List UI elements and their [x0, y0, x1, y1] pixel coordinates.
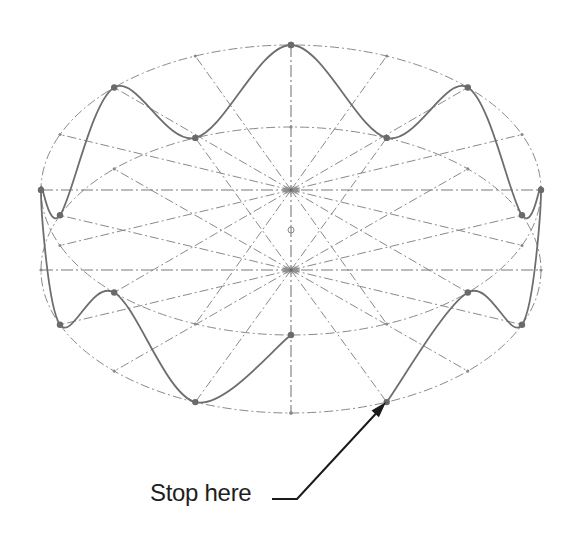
curve-point: [384, 135, 390, 141]
lower-hub-center: [289, 268, 293, 272]
division-dot: [58, 133, 61, 136]
lower-spoke: [291, 215, 522, 270]
curve-point: [192, 135, 198, 141]
curve-point: [111, 289, 117, 295]
curve-point: [519, 212, 525, 218]
division-dot: [520, 244, 523, 247]
division-dot: [113, 167, 116, 170]
division-dot: [194, 322, 197, 325]
division-dot: [385, 322, 388, 325]
curve-point: [288, 332, 294, 338]
curve-point: [57, 212, 63, 218]
upper-spoke: [291, 56, 387, 190]
bottom-point: [289, 411, 293, 415]
lower-spoke: [114, 270, 291, 371]
lower-spoke: [114, 169, 291, 270]
upper-spoke: [195, 56, 291, 190]
division-dot: [39, 268, 42, 271]
lower-spoke: [291, 138, 387, 270]
lower-spoke: [291, 270, 387, 402]
center-axes: [41, 45, 541, 413]
stop-here-label: Stop here: [150, 479, 251, 507]
upper-spoke: [291, 190, 522, 246]
top-point: [288, 42, 294, 48]
curve-point: [519, 322, 525, 328]
stop-here-arrow: [272, 402, 386, 499]
upper-spoke: [114, 88, 291, 191]
upper-hub-center: [289, 188, 293, 192]
lower-spoke: [195, 270, 291, 402]
division-dot: [466, 370, 469, 373]
curve-point: [465, 289, 471, 295]
upper-spoke: [195, 190, 291, 324]
upper-spoke: [291, 88, 468, 191]
upper-spoke: [291, 190, 468, 293]
curve-point: [57, 322, 63, 328]
callout-arrow-line: [272, 407, 382, 499]
curve-point: [192, 399, 198, 405]
lower-spoke: [60, 215, 291, 270]
division-dot: [539, 268, 542, 271]
division-dot: [466, 167, 469, 170]
lower-spoke: [195, 138, 291, 270]
upper-spoke: [60, 190, 291, 246]
ellipse-construction-diagram: [0, 0, 585, 542]
upper-spoke: [291, 190, 387, 324]
division-dot: [58, 244, 61, 247]
division-dot: [385, 54, 388, 57]
division-dot: [194, 54, 197, 57]
division-dot: [520, 133, 523, 136]
division-dot: [113, 370, 116, 373]
curve-point: [38, 187, 44, 193]
division-dot: [289, 125, 292, 128]
lower-spoke: [291, 169, 468, 270]
curve-point: [465, 84, 471, 90]
upper-spoke: [114, 190, 291, 293]
curve-point: [111, 84, 117, 90]
curve-point: [538, 187, 544, 193]
